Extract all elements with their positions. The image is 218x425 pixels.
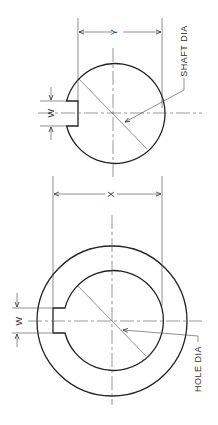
shaft-dia-leader <box>125 78 184 122</box>
hole-dia-label: HOLE DIA <box>193 346 203 392</box>
shaft-diameter-line <box>78 78 147 149</box>
keyway-drawing: Y W SHAFT DIA X W HOLE DI <box>0 0 218 425</box>
shaft-dia-label: SHAFT DIA <box>179 25 189 76</box>
y-dimension-label: Y <box>109 29 119 36</box>
w-label-hub: W <box>14 317 24 326</box>
shaft-outline <box>67 63 165 163</box>
hub-view: X W HOLE DIA <box>12 176 203 405</box>
hub-bore-outline <box>53 271 163 371</box>
shaft-view: Y W SHAFT DIA <box>38 18 202 180</box>
w-label-shaft: W <box>46 109 56 118</box>
x-dimension-label: X <box>106 191 116 198</box>
